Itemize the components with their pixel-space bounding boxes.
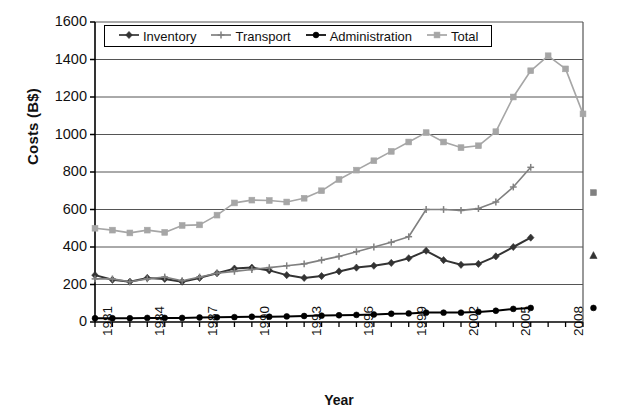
- point-total-1981: [92, 225, 98, 231]
- legend-item-total[interactable]: Total: [419, 27, 485, 45]
- legend-label-inventory: Inventory: [143, 29, 196, 44]
- point-transport-1997: [370, 244, 377, 251]
- point-inventory-1999: [405, 255, 412, 262]
- point-total-1996: [354, 167, 360, 173]
- point-administration-1982: [110, 315, 116, 321]
- point-total-2009: [580, 111, 586, 117]
- point-total-1994: [319, 188, 325, 194]
- point-total-1992: [284, 199, 290, 205]
- point-inventory-1996: [353, 264, 360, 271]
- point-transport-2002: [458, 207, 465, 214]
- point-total-1986: [179, 223, 185, 229]
- point-inventory-1995: [336, 268, 343, 275]
- point-administration-2006: [528, 305, 534, 311]
- line-administration: [95, 308, 531, 318]
- plot-area: [0, 0, 623, 419]
- point-administration-1999: [406, 310, 412, 316]
- Total-2009-marker-glyph: [591, 190, 597, 196]
- point-inventory-1997: [371, 262, 378, 269]
- series-administration: [92, 305, 534, 321]
- point-total-1991: [266, 198, 272, 204]
- point-inventory-2003: [475, 260, 482, 267]
- point-total-1995: [336, 177, 342, 183]
- point-transport-1996: [353, 248, 360, 255]
- point-total-2001: [441, 139, 447, 145]
- legend-marker-plus-icon: [210, 27, 232, 45]
- point-inventory-2004: [493, 253, 500, 260]
- point-total-2000: [423, 130, 429, 136]
- point-inventory-1993: [301, 274, 308, 281]
- legend-marker-diamond-icon: [118, 27, 140, 45]
- point-total-2008: [563, 66, 569, 72]
- point-total-1984: [144, 227, 150, 233]
- point-inventory-2001: [440, 257, 447, 264]
- series-transport: [92, 164, 535, 285]
- legend-label-total: Total: [451, 29, 478, 44]
- cost-trend-line-chart: Costs (B$) Year 020040060080010001200140…: [0, 0, 623, 419]
- Administration-2009-marker: [591, 305, 597, 311]
- point-administration-1987: [197, 315, 203, 321]
- point-total-1985: [162, 229, 168, 235]
- legend-marker-circle-icon: [305, 27, 327, 45]
- point-transport-1992: [283, 262, 290, 269]
- point-administration-1996: [354, 312, 360, 318]
- legend-marker-square-icon: [426, 27, 448, 45]
- point-transport-2001: [440, 206, 447, 213]
- point-administration-1991: [266, 314, 272, 320]
- Total-2009-marker: [591, 190, 597, 196]
- point-administration-2004: [493, 308, 499, 314]
- Administration-2009-marker-glyph: [591, 305, 597, 311]
- point-administration-1986: [179, 315, 185, 321]
- point-administration-1993: [301, 313, 307, 319]
- point-administration-1994: [319, 313, 325, 319]
- point-total-2002: [458, 145, 464, 151]
- point-total-1987: [197, 222, 203, 228]
- point-transport-1993: [301, 260, 308, 267]
- point-administration-1989: [232, 314, 238, 320]
- chart-legend: InventoryTransportAdministrationTotal: [104, 25, 492, 47]
- point-total-1997: [371, 158, 377, 164]
- point-administration-1997: [371, 312, 377, 318]
- point-inventory-2006: [527, 234, 534, 241]
- point-administration-1983: [127, 315, 133, 321]
- point-administration-2005: [510, 306, 516, 312]
- point-total-1983: [127, 230, 133, 236]
- point-administration-1995: [336, 312, 342, 318]
- point-total-1982: [110, 227, 116, 233]
- point-administration-1990: [249, 314, 255, 320]
- point-total-1998: [388, 148, 394, 154]
- point-administration-1985: [162, 315, 168, 321]
- point-total-2007: [545, 53, 551, 59]
- point-transport-1988: [214, 270, 221, 277]
- point-administration-2000: [423, 310, 429, 316]
- point-total-2006: [528, 68, 534, 74]
- Inventory-2009-marker-glyph: [590, 252, 597, 259]
- Inventory-2009-marker: [590, 252, 597, 259]
- point-administration-1992: [284, 313, 290, 319]
- point-inventory-2002: [458, 261, 465, 268]
- point-total-2005: [510, 94, 516, 100]
- point-total-2003: [476, 143, 482, 149]
- point-transport-2003: [475, 205, 482, 212]
- line-inventory: [95, 238, 531, 282]
- legend-label-administration: Administration: [330, 29, 412, 44]
- point-transport-1998: [388, 239, 395, 246]
- point-administration-1981: [92, 315, 98, 321]
- point-administration-2001: [441, 310, 447, 316]
- legend-item-transport[interactable]: Transport: [203, 27, 297, 45]
- legend-item-inventory[interactable]: Inventory: [111, 27, 203, 45]
- point-inventory-1992: [283, 272, 290, 279]
- point-administration-1984: [144, 315, 150, 321]
- point-total-1989: [232, 200, 238, 206]
- point-inventory-1994: [318, 272, 325, 279]
- point-transport-1995: [336, 253, 343, 260]
- legend-item-administration[interactable]: Administration: [298, 27, 419, 45]
- point-administration-1988: [214, 314, 220, 320]
- point-total-1988: [214, 212, 220, 218]
- point-administration-1998: [388, 311, 394, 317]
- point-inventory-2005: [510, 243, 517, 250]
- series-total: [92, 53, 586, 236]
- point-administration-2002: [458, 310, 464, 316]
- point-total-1990: [249, 197, 255, 203]
- point-total-1993: [301, 195, 307, 201]
